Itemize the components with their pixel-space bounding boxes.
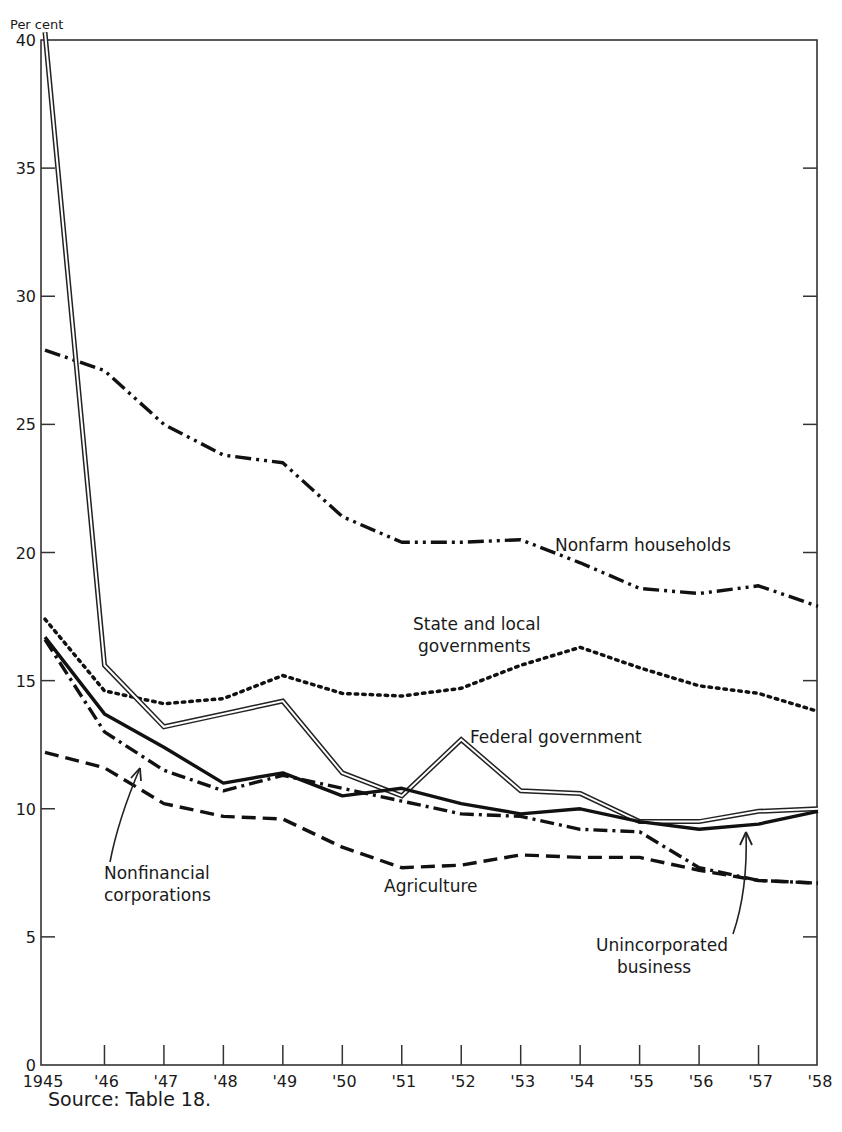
x-tick-label: '53 xyxy=(510,1072,535,1091)
y-tick-label: 10 xyxy=(16,800,36,819)
label-unincorporated-business: Unincorporated xyxy=(596,935,728,955)
x-tick-label: '54 xyxy=(570,1072,595,1091)
label-nonfarm-households: Nonfarm households xyxy=(555,535,731,555)
label-state-and-local-governments: governments xyxy=(418,636,531,656)
series-nonfinancial-corporations xyxy=(45,640,818,884)
x-tick-label: '50 xyxy=(332,1072,357,1091)
arrow-unincorporated xyxy=(733,832,746,934)
x-tick-label: '51 xyxy=(391,1072,416,1091)
x-tick-label: '55 xyxy=(629,1072,654,1091)
label-agriculture: Agriculture xyxy=(384,876,478,896)
series-nonfarm-households xyxy=(45,350,818,606)
y-tick-label: 20 xyxy=(16,544,36,563)
x-tick-label: '52 xyxy=(451,1072,476,1091)
series-lines xyxy=(45,32,818,883)
label-nonfinancial-corporations: Nonfinancial xyxy=(104,863,210,883)
line-chart: 0510152025303540Per cent1945'46'47'48'49… xyxy=(0,0,842,1132)
label-state-and-local-governments: State and local xyxy=(413,614,540,634)
x-tick-label: '49 xyxy=(272,1072,297,1091)
y-tick-label: 25 xyxy=(16,415,36,434)
label-federal-government: Federal government xyxy=(470,727,642,747)
x-tick-label: '58 xyxy=(808,1072,833,1091)
x-tick-label: '56 xyxy=(689,1072,714,1091)
x-axis: 1945'46'47'48'49'50'51'52'53'54'55'56'57… xyxy=(23,1045,833,1091)
y-tick-label: 15 xyxy=(16,672,36,691)
series-labels: Nonfarm householdsState and localgovernm… xyxy=(104,535,731,977)
source-note: Source: Table 18. xyxy=(48,1088,211,1110)
y-tick-label: 35 xyxy=(16,159,36,178)
annotation-arrows xyxy=(110,768,752,934)
y-tick-label: 30 xyxy=(16,287,36,306)
label-nonfinancial-corporations: corporations xyxy=(104,885,211,905)
label-unincorporated-business: business xyxy=(617,957,691,977)
x-tick-label: '48 xyxy=(213,1072,238,1091)
y-tick-label: 5 xyxy=(26,928,36,947)
x-tick-label: '57 xyxy=(748,1072,773,1091)
y-tick-label: 40 xyxy=(16,31,36,50)
y-axis-unit-label: Per cent xyxy=(10,17,63,32)
